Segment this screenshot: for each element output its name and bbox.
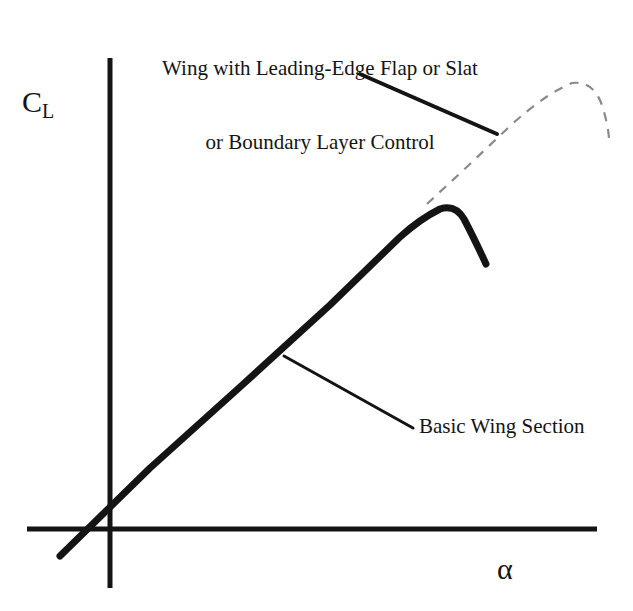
y-axis-label: CL	[22, 84, 54, 123]
high-lift-annotation-line2: or Boundary Layer Control	[120, 130, 520, 155]
x-axis-label-alpha: α	[497, 551, 513, 586]
y-axis-label-main: C	[22, 85, 42, 118]
high-lift-annotation-line1: Wing with Leading-Edge Flap or Slat	[120, 56, 520, 81]
high-lift-annotation-label: Wing with Leading-Edge Flap or Slat or B…	[120, 6, 520, 204]
basic-wing-section-label: Basic Wing Section	[419, 414, 585, 439]
lift-curve-figure: Wing with Leading-Edge Flap or Slat or B…	[0, 0, 633, 611]
basic-wing-section-curve	[60, 208, 486, 556]
y-axis-label-subscript: L	[42, 100, 54, 122]
basic-wing-leader-line	[284, 356, 413, 428]
